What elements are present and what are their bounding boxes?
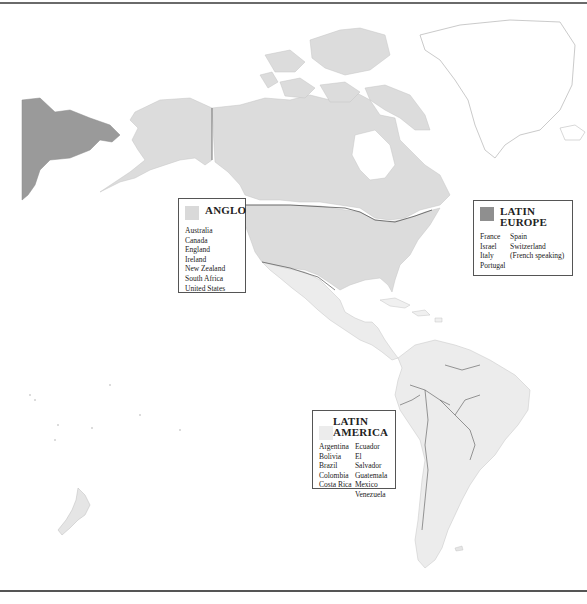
pacific-islands [29, 384, 181, 441]
legend-anglo: ANGLO Australia Canada England Ireland N… [178, 198, 246, 293]
legend-item: Brazil [319, 461, 355, 471]
legend-item: Venezuela [355, 490, 389, 500]
region-iceland [560, 125, 585, 140]
latin-america-col1: Argentina Bolivia Brazil Colombia Costa … [319, 442, 355, 500]
legend-item: South Africa [185, 274, 225, 284]
legend-item: United States [185, 284, 225, 294]
anglo-country-list: Australia Canada England Ireland New Zea… [185, 226, 225, 293]
legend-item: Guatemala [355, 471, 389, 481]
latin-europe-title-line2: EUROPE [500, 217, 547, 228]
legend-item: New Zealand [185, 264, 225, 274]
region-greenland [420, 20, 575, 158]
legend-item: Australia [185, 226, 225, 236]
latin-america-swatch [319, 426, 333, 440]
latin-europe-col1: France Israel Italy Portugal [480, 232, 510, 270]
legend-item: Italy [480, 251, 510, 261]
latin-america-col2: Ecuador El Salvador Guatemala Mexico Ven… [355, 442, 389, 500]
legend-latin-america: LATIN AMERICA Argentina Bolivia Brazil C… [312, 410, 396, 489]
legend-item: Mexico [355, 480, 389, 490]
bottom-border-rule [0, 590, 587, 592]
anglo-title: ANGLO [205, 205, 246, 216]
legend-item: Colombia [319, 471, 355, 481]
legend-item: Israel [480, 242, 510, 252]
region-new-zealand [58, 488, 90, 535]
latin-america-title-line2: AMERICA [333, 427, 388, 438]
region-russia-far-east [22, 98, 120, 200]
legend-item: El Salvador [355, 452, 389, 471]
legend-item: Switzerland [510, 242, 564, 252]
legend-item: Ireland [185, 255, 225, 265]
legend-item: Bolivia [319, 452, 355, 462]
region-falklands [455, 546, 463, 551]
legend-item: (French speaking) [510, 251, 564, 261]
legend-item: Canada [185, 236, 225, 246]
legend-item: England [185, 245, 225, 255]
legend-item: Ecuador [355, 442, 389, 452]
legend-item: Portugal [480, 261, 510, 271]
anglo-swatch [185, 206, 199, 220]
region-united-states [245, 205, 440, 292]
legend-latin-europe: LATIN EUROPE France Israel Italy Portuga… [473, 200, 573, 276]
latin-europe-swatch [480, 207, 494, 221]
legend-item: Spain [510, 232, 564, 242]
legend-item: Costa Rica [319, 480, 355, 490]
legend-item: Argentina [319, 442, 355, 452]
legend-item: France [480, 232, 510, 242]
region-alaska [100, 98, 212, 192]
world-map [0, 0, 587, 604]
region-caribbean [380, 298, 442, 322]
latin-europe-col2: Spain Switzerland (French speaking) [510, 232, 564, 270]
region-south-america [395, 340, 530, 568]
